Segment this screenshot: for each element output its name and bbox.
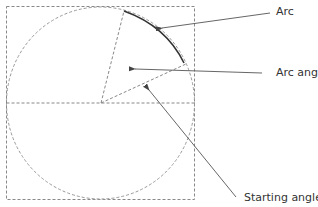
arc-diagram: [0, 0, 318, 207]
starting-angle-leader-arrow: [149, 90, 236, 197]
radius-arc-start: [101, 11, 124, 103]
arc-label: Arc: [276, 6, 294, 17]
full-ellipse: [7, 7, 195, 199]
starting-angle-label: Starting angle: [244, 192, 318, 203]
arc-segment: [124, 11, 184, 63]
arc-angle-leader-arrow: [135, 69, 262, 73]
arc-angle-label: Arc angle: [276, 67, 318, 78]
bounding-box: [7, 7, 195, 200]
arc-leader-arrow: [162, 13, 270, 28]
